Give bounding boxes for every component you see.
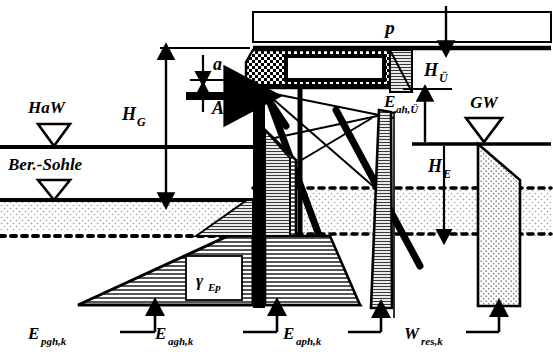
Eah-subscript: ah,Ü: [396, 103, 419, 115]
capping-beam-void: [286, 56, 384, 80]
wall-toe: [253, 300, 265, 308]
surcharge-label: p: [383, 17, 395, 38]
anchor-force-label: A: [211, 98, 224, 118]
Wres-subscript: res,k: [421, 335, 443, 347]
HE-label: H: [427, 156, 443, 176]
surcharge-load-box: p: [253, 6, 551, 48]
Eaph-label: E: [282, 324, 294, 343]
anchor-spacing-label: a: [213, 54, 222, 74]
engineering-section-drawing: p HaW Ber.-Sohle γ Ep: [0, 0, 553, 356]
Wres-label: W: [404, 324, 421, 343]
sheet-pile-wall: [253, 88, 265, 306]
Eagh-label: E: [154, 324, 166, 343]
HU-subscript: Ü: [439, 71, 449, 85]
diagram-canvas: p HaW Ber.-Sohle γ Ep: [0, 0, 553, 356]
HG-label: H: [121, 104, 137, 124]
HG-subscript: G: [137, 115, 146, 129]
bed-level-label: Ber.-Sohle: [7, 155, 83, 174]
Epgh-subscript: pgh,k: [40, 335, 67, 347]
Epgh-label: E: [27, 324, 39, 343]
ground-water-label: GW: [470, 93, 499, 112]
HU-label: H: [423, 60, 439, 80]
surcharge-earth-pressure-diagram: [390, 50, 412, 92]
HE-subscript: E: [442, 167, 451, 181]
Eah-label: E: [383, 92, 395, 111]
high-water-label: HaW: [27, 98, 67, 117]
Eagh-subscript: agh,k: [168, 335, 194, 347]
gamma-ep-label: γ: [196, 271, 204, 290]
gamma-ep-box: [186, 256, 242, 300]
capping-beam: [246, 50, 390, 88]
Eaph-subscript: aph,k: [296, 335, 322, 347]
gamma-ep-subscript: Ep: [207, 281, 221, 293]
